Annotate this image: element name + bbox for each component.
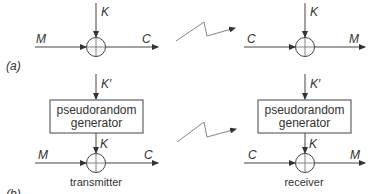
panel-a-label: (a) xyxy=(6,59,21,73)
transmitter-caption: transmitter xyxy=(70,176,122,188)
key-label: K xyxy=(101,5,110,19)
seed-label: K′ xyxy=(310,77,321,91)
panel-b-transmitter: K′ pseudorandom generator K M C transmit… xyxy=(35,74,158,188)
output-label: C xyxy=(144,148,153,162)
wireless-link-icon xyxy=(177,122,236,142)
input-label: M xyxy=(36,32,46,46)
panel-b-receiver: K′ pseudorandom generator K C M receiver xyxy=(244,74,365,188)
panel-a-receiver: K C M xyxy=(244,3,365,57)
key-label: K xyxy=(310,5,319,19)
generator-label-line2: generator xyxy=(71,116,122,130)
wireless-link-icon xyxy=(176,22,235,41)
xor-icon xyxy=(296,154,315,173)
generator-label-line1: pseudorandom xyxy=(56,103,136,117)
xor-icon xyxy=(296,38,315,57)
panel-b-label: (b) xyxy=(6,187,21,194)
generator-label-line2: generator xyxy=(279,116,330,130)
key-label: K xyxy=(100,137,109,151)
input-label: C xyxy=(248,148,257,162)
input-label: M xyxy=(38,148,48,162)
stream-cipher-diagram: K M C K C M xyxy=(0,0,369,194)
generator-label-line1: pseudorandom xyxy=(264,103,344,117)
panel-a-transmitter: K M C xyxy=(35,3,158,57)
panel-a: K M C K C M xyxy=(6,3,365,73)
output-label: C xyxy=(142,32,151,46)
key-label: K xyxy=(309,137,318,151)
output-label: M xyxy=(350,148,360,162)
receiver-caption: receiver xyxy=(284,176,323,188)
seed-label: K′ xyxy=(101,77,112,91)
xor-icon xyxy=(87,38,106,57)
output-label: M xyxy=(349,32,359,46)
panel-b: K′ pseudorandom generator K M C transmit… xyxy=(6,74,365,194)
xor-icon xyxy=(87,154,106,173)
input-label: C xyxy=(247,32,256,46)
